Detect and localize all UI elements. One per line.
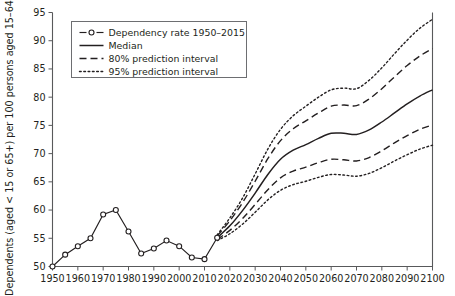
legend-label: 80% prediction interval	[109, 53, 219, 64]
series-line-4	[217, 19, 432, 235]
y-axis-label-text: Dependents (aged < 15 or 65+) per 100 pe…	[4, 0, 15, 296]
series-line-2	[217, 49, 432, 236]
y-tick-label: 50	[33, 261, 45, 272]
historical-data-markers	[50, 208, 220, 269]
legend-label: 95% prediction interval	[109, 66, 219, 77]
x-tick-label: 2080	[370, 273, 394, 284]
series-line-3	[217, 125, 432, 240]
y-axis-title: Dependents (aged < 15 or 65+) per 100 pe…	[4, 0, 15, 296]
y-tick-label: 85	[33, 63, 45, 74]
legend-label: Dependency rate 1950–2015	[109, 27, 245, 38]
x-tick-label: 2030	[243, 273, 267, 284]
x-tick-label: 2060	[319, 273, 343, 284]
data-point-marker	[75, 244, 80, 249]
x-tick-label: 1980	[116, 273, 140, 284]
data-point-marker	[139, 251, 144, 256]
data-point-marker	[88, 236, 93, 241]
x-tick-label: 2090	[395, 273, 419, 284]
x-tick-label: 2040	[268, 273, 292, 284]
series-line-5	[217, 145, 432, 240]
data-point-marker	[215, 235, 220, 240]
data-point-marker	[113, 208, 118, 213]
y-tick-label: 90	[33, 35, 45, 46]
x-tick-label: 2100	[420, 273, 444, 284]
data-point-marker	[50, 264, 55, 269]
x-tick-label: 1950	[40, 273, 64, 284]
x-tick-label: 1970	[91, 273, 115, 284]
dependency-ratio-chart: Dependents (aged < 15 or 65+) per 100 pe…	[0, 0, 455, 296]
data-point-marker	[63, 252, 68, 257]
x-tick-label: 2050	[294, 273, 318, 284]
y-axis-ticks: 50556065707580859095	[33, 7, 52, 272]
chart-legend: Dependency rate 1950–2015Median80% predi…	[72, 22, 247, 78]
y-tick-label: 70	[33, 148, 45, 159]
data-point-marker	[151, 246, 156, 251]
data-point-marker	[164, 238, 169, 243]
data-point-marker	[189, 255, 194, 260]
y-tick-label: 55	[33, 233, 45, 244]
data-point-marker	[126, 229, 131, 234]
legend-label: Median	[109, 40, 143, 51]
y-tick-label: 75	[33, 120, 45, 131]
x-tick-label: 2000	[167, 273, 191, 284]
x-tick-label: 2020	[218, 273, 242, 284]
data-point-marker	[177, 244, 182, 249]
series-line-1	[217, 90, 432, 238]
x-tick-label: 1990	[142, 273, 166, 284]
x-axis-ticks: 1950196019701980199020002010202020302040…	[40, 267, 444, 284]
x-tick-label: 2010	[192, 273, 216, 284]
x-tick-label: 1960	[66, 273, 90, 284]
data-point-marker	[101, 212, 106, 217]
y-tick-label: 60	[33, 204, 45, 215]
y-tick-label: 65	[33, 176, 45, 187]
x-tick-label: 2070	[344, 273, 368, 284]
y-tick-label: 95	[33, 7, 45, 18]
legend-swatch-marker	[89, 30, 94, 35]
y-tick-label: 80	[33, 92, 45, 103]
data-point-marker	[202, 257, 207, 262]
chart-canvas: Dependents (aged < 15 or 65+) per 100 pe…	[0, 0, 455, 296]
